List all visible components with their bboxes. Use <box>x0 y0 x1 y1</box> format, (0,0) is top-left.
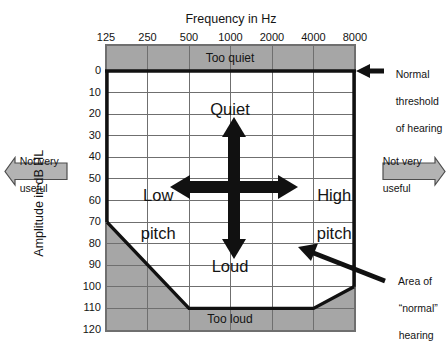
quiet-region-label: Quiet <box>175 100 285 119</box>
y-tick-100: 100 <box>73 280 101 293</box>
y-tick-70: 70 <box>73 215 101 228</box>
normal-area-line3: hearing <box>399 329 434 341</box>
too-quiet-label: Too quiet <box>160 52 300 66</box>
y-tick-90: 90 <box>73 258 101 271</box>
low-pitch-label-line1: Low <box>143 186 173 204</box>
normal-threshold-line1: Normal <box>396 68 430 80</box>
high-pitch-label-line1: High <box>317 186 351 204</box>
normal-area-line1: Area of <box>398 275 432 287</box>
audiogram-figure: Frequency in Hz 125 250 500 1000 2000 40… <box>0 0 448 344</box>
y-tick-20: 20 <box>73 107 101 120</box>
y-tick-110: 110 <box>73 301 101 314</box>
too-loud-label: Too loud <box>160 313 300 327</box>
y-tick-0: 0 <box>73 64 101 77</box>
y-tick-80: 80 <box>73 237 101 250</box>
y-tick-120: 120 <box>73 323 101 336</box>
x-tick-4000: 4000 <box>292 31 336 44</box>
normal-threshold-annotation: Normal threshold of hearing <box>384 55 448 149</box>
x-tick-2000: 2000 <box>250 31 294 44</box>
right-annotation-line1: Not very <box>383 155 422 167</box>
x-axis-title: Frequency in Hz <box>107 12 355 26</box>
x-tick-125: 125 <box>84 31 128 44</box>
loud-region-label: Loud <box>175 257 285 276</box>
low-pitch-label-line2: pitch <box>141 224 176 242</box>
high-pitch-label-line2: pitch <box>317 224 352 242</box>
y-tick-30: 30 <box>73 129 101 142</box>
x-tick-250: 250 <box>126 31 170 44</box>
x-tick-500: 500 <box>167 31 211 44</box>
right-not-very-useful-annotation: Not very useful <box>371 142 447 209</box>
x-tick-8000: 8000 <box>333 31 377 44</box>
normal-threshold-callout-arrow <box>356 64 384 78</box>
x-tick-1000: 1000 <box>209 31 253 44</box>
normal-threshold-line3: of hearing <box>396 122 443 134</box>
left-annotation-line1: Not very <box>20 155 59 167</box>
normal-hearing-area-annotation: Area of “normal” hearing <box>387 262 448 344</box>
high-pitch-label: High pitch <box>285 167 365 262</box>
normal-area-line2: “normal” <box>399 302 438 314</box>
normal-threshold-line2: threshold <box>396 95 439 107</box>
left-not-very-useful-annotation: Not very useful <box>8 142 84 209</box>
y-tick-10: 10 <box>73 86 101 99</box>
low-pitch-label: Low pitch <box>112 167 186 262</box>
left-annotation-line2: useful <box>20 182 48 194</box>
right-annotation-line2: useful <box>383 182 411 194</box>
